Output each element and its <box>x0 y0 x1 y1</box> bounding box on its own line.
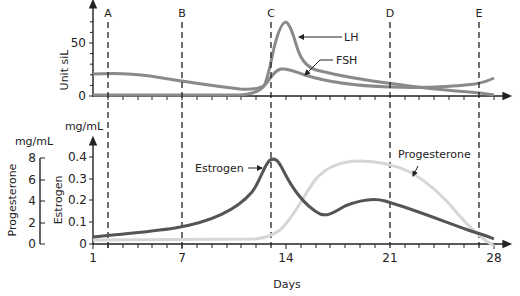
marker-label-d: D <box>386 7 394 20</box>
upper-y-label: Unit siL <box>58 49 71 91</box>
progesterone-tick-4: 4 <box>28 194 36 208</box>
lh-label: LH <box>344 31 358 44</box>
marker-label-c: C <box>267 7 275 20</box>
progesterone-y-ticks <box>40 158 45 244</box>
upper-tick-50: 50 <box>71 36 86 50</box>
upper-tick-0: 0 <box>78 89 86 103</box>
progesterone-curve-label: Progesterone <box>398 148 471 161</box>
x-tick-14: 14 <box>278 251 293 265</box>
progesterone-tick-8: 8 <box>28 151 36 165</box>
fsh-curve <box>93 69 494 89</box>
progesterone-axis-label: Progesterone <box>6 163 19 236</box>
estrogen-tick-0-3: 0.3 <box>68 172 87 186</box>
progesterone-unit: mg/mL <box>15 135 54 148</box>
estrogen-unit: mg/mL <box>65 120 104 133</box>
estrogen-axis-label: Estrogen <box>52 176 65 225</box>
progesterone-curve <box>93 161 494 246</box>
estrogen-tick-0-4: 0.4 <box>68 150 87 164</box>
fsh-label: FSH <box>336 54 357 67</box>
lower-panel: 0 0.1 0.2 0.3 0.4 mg/mL Estrogen 8 6 4 2… <box>6 120 508 291</box>
lh-curve <box>93 22 494 95</box>
estrogen-curve <box>93 159 494 239</box>
x-axis-label: Days <box>273 278 301 291</box>
lower-x-ticks <box>93 244 494 249</box>
estrogen-tick-0: 0 <box>79 237 87 251</box>
x-tick-1: 1 <box>89 251 97 265</box>
hormone-cycle-chart: 50 0 Unit siL LH FSH <box>0 0 520 296</box>
estrogen-curve-label: Estrogen <box>195 162 244 175</box>
upper-panel: 50 0 Unit siL LH FSH <box>58 3 508 103</box>
marker-label-e: E <box>476 7 483 20</box>
x-tick-7: 7 <box>178 251 186 265</box>
progesterone-tick-6: 6 <box>28 173 36 187</box>
marker-label-a: A <box>104 7 112 20</box>
progesterone-tick-2: 2 <box>28 216 36 230</box>
estrogen-tick-0-1: 0.1 <box>68 215 87 229</box>
x-tick-21: 21 <box>382 251 397 265</box>
marker-label-b: B <box>178 7 186 20</box>
x-tick-28: 28 <box>486 251 501 265</box>
progesterone-tick-0: 0 <box>28 237 36 251</box>
estrogen-tick-0-2: 0.2 <box>68 193 87 207</box>
